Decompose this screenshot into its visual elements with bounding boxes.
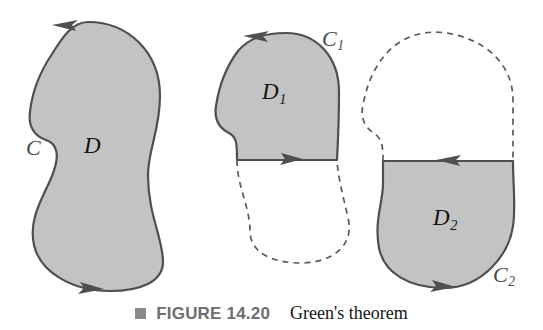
region-label-d1-subscript: 1: [279, 91, 286, 107]
caption-inner: FIGURE 14.20 Green's theorem: [135, 303, 408, 324]
curve-label-c2: C2: [493, 264, 515, 289]
dashed-lower-boundary: [237, 160, 349, 263]
figure-caption: FIGURE 14.20 Green's theorem: [0, 296, 543, 330]
region-label-d2: D2: [433, 206, 457, 232]
curve-label-c1-letter: C: [322, 26, 337, 51]
region-label-d2-letter: D: [433, 205, 450, 230]
filled-square-icon: [135, 308, 146, 319]
caption-figure-number: FIGURE 14.20: [156, 304, 270, 324]
figure-container: C D C1 D1 D2 C2 FIGURE 14.20 Green's the…: [0, 0, 543, 330]
panel-lower-subregion: [362, 32, 514, 292]
region-label-d: D: [84, 134, 101, 157]
greens-theorem-diagram: [0, 0, 543, 330]
curve-label-c2-subscript: 2: [508, 274, 515, 289]
region-label-d2-subscript: 2: [450, 217, 457, 233]
caption-title: Green's theorem: [290, 303, 408, 324]
dashed-upper-boundary: [362, 32, 513, 161]
region-label-d1-letter: D: [262, 79, 279, 104]
region-label-d1: D1: [262, 80, 286, 106]
curve-label-c2-letter: C: [493, 262, 508, 287]
curve-label-c1-subscript: 1: [337, 38, 344, 53]
curve-label-c: C: [26, 137, 41, 159]
curve-label-c1: C1: [322, 28, 344, 53]
panel-upper-subregion: [216, 31, 350, 263]
